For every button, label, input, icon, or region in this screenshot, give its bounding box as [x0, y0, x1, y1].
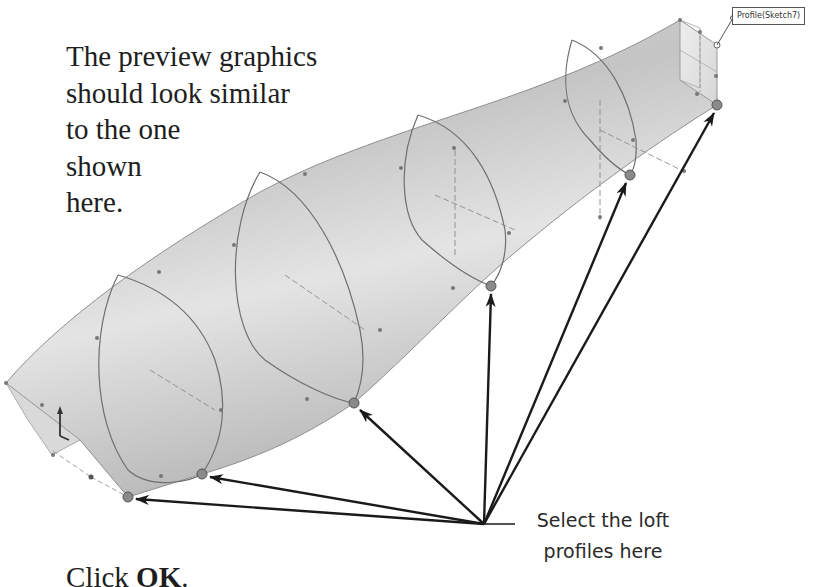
profile-tag-label[interactable]: Profile(Sketch7)	[732, 7, 805, 25]
instruction-text: The preview graphics should look similar…	[66, 38, 317, 221]
profile-point-6[interactable]	[712, 100, 722, 110]
instruction-line-4: shown	[66, 148, 317, 185]
step-suffix: .	[181, 561, 188, 587]
profile-point-1[interactable]	[123, 492, 133, 502]
select-profiles-callout: Select the loft profiles here	[513, 505, 693, 567]
profile-point-2[interactable]	[197, 469, 207, 479]
callout-line-1: Select the loft	[513, 505, 693, 536]
instruction-line-5: here.	[66, 184, 317, 221]
instruction-line-2: should look similar	[66, 75, 317, 112]
profile-point-3[interactable]	[349, 398, 359, 408]
callout-line-2: profiles here	[513, 536, 693, 567]
tutorial-page: Profile(Sketch7) The preview graphics sh…	[0, 0, 837, 587]
instruction-line-3: to the one	[66, 111, 317, 148]
profile-tag-leader	[717, 18, 733, 45]
step-instruction: Click OK.	[66, 561, 188, 587]
profile-point-4[interactable]	[486, 281, 496, 291]
instruction-line-1: The preview graphics	[66, 38, 317, 75]
profile-point-5[interactable]	[625, 170, 635, 180]
step-prefix: Click	[66, 561, 136, 587]
ok-emphasis: OK	[136, 561, 181, 587]
